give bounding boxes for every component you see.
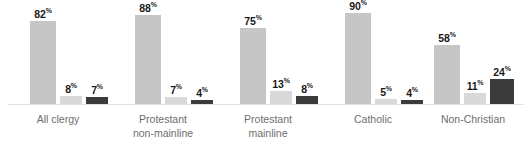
bars-non-christian: 58% 11% 24% <box>428 0 528 104</box>
category-label-protestant-mainline: Protestant mainline <box>218 112 318 140</box>
category-label-line1: All clergy <box>37 113 80 125</box>
bar-slot: 4% <box>191 0 213 104</box>
category-label-all-clergy: All clergy <box>8 112 108 126</box>
bar-slot: 88% <box>135 0 161 104</box>
percent-symbol: % <box>361 0 367 6</box>
bar-series-1[interactable]: 88% <box>135 15 161 104</box>
percent-symbol: % <box>307 82 313 89</box>
bar-slot: 75% <box>240 0 266 104</box>
bar-value-label: 8% <box>301 82 313 94</box>
bars-all-clergy: 82% 8% 7% <box>8 0 108 104</box>
bar-series-3[interactable]: 4% <box>191 100 213 104</box>
bar-slot: 82% <box>30 0 56 104</box>
bar-slot: 13% <box>270 0 292 104</box>
bar-value-label: 8% <box>65 82 77 94</box>
bar-value-label: 4% <box>406 86 418 98</box>
bar-slot: 90% <box>345 0 371 104</box>
category-label-line1: Non-Christian <box>441 113 505 125</box>
bar-slot: 24% <box>490 0 514 104</box>
bar-value-label: 75% <box>244 14 261 26</box>
bar-series-2[interactable]: 8% <box>60 96 82 104</box>
bar-series-3[interactable]: 24% <box>490 79 514 104</box>
bar-group-catholic: 90% 5% 4% Catholic <box>323 0 423 147</box>
bar-value-label: 58% <box>438 31 455 43</box>
bar-series-3[interactable]: 7% <box>86 97 108 104</box>
bar-value-label: 82% <box>34 7 51 19</box>
bars-catholic: 90% 5% 4% <box>323 0 423 104</box>
percent-symbol: % <box>450 31 456 38</box>
percent-symbol: % <box>412 86 418 93</box>
bar-value-label: 90% <box>349 0 366 11</box>
bar-series-2[interactable]: 5% <box>375 99 397 104</box>
bar-value-label: 7% <box>170 83 182 95</box>
bar-series-3[interactable]: 4% <box>401 100 423 104</box>
bar-group-all-clergy: 82% 8% 7% All clergy <box>8 0 108 147</box>
bar-chart: 82% 8% 7% All clergy 88% <box>0 0 532 147</box>
bar-value-label: 5% <box>380 85 392 97</box>
bar-slot: 4% <box>401 0 423 104</box>
bar-series-2[interactable]: 7% <box>165 97 187 104</box>
bar-value-label: 11% <box>467 79 484 91</box>
bar-series-2[interactable]: 13% <box>270 91 292 104</box>
percent-symbol: % <box>46 7 52 14</box>
bar-series-1[interactable]: 82% <box>30 21 56 104</box>
bar-slot: 11% <box>464 0 486 104</box>
percent-symbol: % <box>386 85 392 92</box>
percent-symbol: % <box>97 83 103 90</box>
category-label-line1: Catholic <box>354 113 392 125</box>
percent-symbol: % <box>71 82 77 89</box>
bars-protestant-non-mainline: 88% 7% 4% <box>113 0 213 104</box>
bar-value-label: 88% <box>139 1 156 13</box>
bar-value-label: 4% <box>196 86 208 98</box>
bar-slot: 58% <box>434 0 460 104</box>
category-label-line2: mainline <box>218 126 318 140</box>
bar-slot: 7% <box>165 0 187 104</box>
bar-series-2[interactable]: 11% <box>464 93 486 104</box>
category-label-line2: non-mainline <box>113 126 213 140</box>
percent-symbol: % <box>151 1 157 8</box>
percent-symbol: % <box>505 65 511 72</box>
percent-symbol: % <box>477 79 483 86</box>
percent-symbol: % <box>176 83 182 90</box>
category-label-line1: Protestant <box>139 113 187 125</box>
bar-slot: 5% <box>375 0 397 104</box>
bar-series-3[interactable]: 8% <box>296 96 318 104</box>
percent-symbol: % <box>256 14 262 21</box>
bar-value-label: 13% <box>272 77 289 89</box>
bar-value-label: 7% <box>91 83 103 95</box>
bar-group-protestant-mainline: 75% 13% 8% Protestant mainline <box>218 0 318 147</box>
bars-protestant-mainline: 75% 13% 8% <box>218 0 318 104</box>
category-label-catholic: Catholic <box>323 112 423 126</box>
category-label-line1: Protestant <box>244 113 292 125</box>
bar-slot: 7% <box>86 0 108 104</box>
category-label-protestant-non-mainline: Protestant non-mainline <box>113 112 213 140</box>
bar-group-protestant-non-mainline: 88% 7% 4% Protestant non-mainline <box>113 0 213 147</box>
bar-slot: 8% <box>296 0 318 104</box>
percent-symbol: % <box>202 86 208 93</box>
category-label-non-christian: Non-Christian <box>423 112 523 126</box>
percent-symbol: % <box>284 77 290 84</box>
bar-value-label: 24% <box>493 65 510 77</box>
bar-series-1[interactable]: 90% <box>345 13 371 104</box>
bar-group-non-christian: 58% 11% 24% Non-Christian <box>428 0 528 147</box>
bar-slot: 8% <box>60 0 82 104</box>
bar-series-1[interactable]: 75% <box>240 28 266 104</box>
bar-series-1[interactable]: 58% <box>434 45 460 104</box>
